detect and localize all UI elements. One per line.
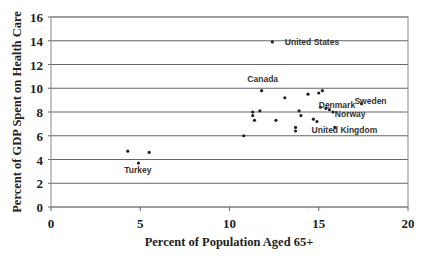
data-point — [137, 161, 140, 164]
data-point — [317, 91, 320, 94]
data-point — [242, 134, 245, 137]
x-tick-label: 5 — [137, 216, 144, 231]
x-tick-label: 20 — [402, 216, 415, 231]
point-label: Turkey — [124, 165, 152, 175]
y-tick-label: 14 — [30, 34, 44, 49]
data-point — [251, 114, 254, 117]
data-point — [312, 118, 315, 121]
data-point — [253, 119, 256, 122]
point-label: Denmark — [319, 100, 356, 110]
y-tick-label: 6 — [37, 129, 44, 144]
data-point — [294, 129, 297, 132]
y-tick-label: 4 — [37, 153, 44, 168]
y-tick-label: 10 — [30, 81, 43, 96]
data-point — [260, 89, 263, 92]
data-point — [271, 40, 274, 43]
point-label: Canada — [247, 74, 278, 84]
y-axis-ticks: 0246810121416 — [30, 10, 44, 215]
x-axis-title: Percent of Population Aged 65+ — [145, 235, 314, 249]
data-point — [321, 89, 324, 92]
scatter-chart: 0246810121416 05101520 United StatesCana… — [0, 0, 426, 264]
y-tick-label: 12 — [30, 58, 43, 73]
data-point — [126, 150, 129, 153]
data-point — [283, 96, 286, 99]
y-tick-label: 2 — [37, 176, 44, 191]
y-axis-title: Percent of GDP Spent on Health Care — [10, 11, 24, 213]
point-label: Sweden — [354, 96, 386, 106]
data-point — [258, 109, 261, 112]
x-tick-label: 15 — [312, 216, 326, 231]
point-label: Norway — [335, 109, 366, 119]
data-point — [306, 93, 309, 96]
y-tick-label: 16 — [30, 10, 44, 25]
y-tick-label: 8 — [37, 105, 44, 120]
data-point — [294, 126, 297, 129]
point-labels: United StatesCanadaDenmarkSwedenNorwayUn… — [124, 37, 386, 175]
point-label: United States — [285, 37, 340, 47]
data-point — [299, 114, 302, 117]
x-tick-label: 10 — [223, 216, 236, 231]
data-point — [251, 110, 254, 113]
data-point — [274, 119, 277, 122]
data-point — [148, 151, 151, 154]
x-axis-ticks: 05101520 — [48, 207, 415, 231]
point-label: United Kingdom — [312, 125, 378, 135]
data-point — [298, 109, 301, 112]
x-tick-label: 0 — [48, 216, 55, 231]
data-point — [315, 120, 318, 123]
y-tick-label: 0 — [37, 200, 44, 215]
